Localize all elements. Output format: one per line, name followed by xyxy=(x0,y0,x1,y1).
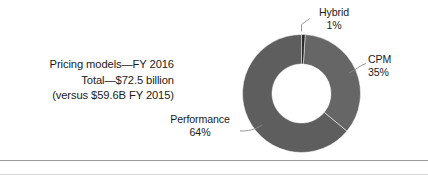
callout-cpm: CPM 35% xyxy=(368,53,424,78)
callout-performance-percent: 64% xyxy=(163,126,237,139)
caption-line-prior-year: (versus $59.6B FY 2015) xyxy=(8,88,174,104)
callout-performance-name: Performance xyxy=(163,113,237,126)
callout-performance: Performance 64% xyxy=(163,113,237,138)
donut-slice-cpm xyxy=(303,35,360,131)
bottom-rule xyxy=(0,160,428,161)
pricing-models-donut-figure: Pricing models—FY 2016 Total—$72.5 billi… xyxy=(0,0,428,176)
caption-line-title: Pricing models—FY 2016 xyxy=(8,57,174,73)
callout-hybrid: Hybrid 1% xyxy=(307,6,361,31)
bottom-rule-faint xyxy=(0,174,428,175)
chart-caption: Pricing models—FY 2016 Total—$72.5 billi… xyxy=(8,57,174,104)
callout-cpm-percent: 35% xyxy=(368,66,424,79)
donut-chart-svg xyxy=(242,29,362,159)
donut-chart xyxy=(242,29,362,159)
callout-hybrid-percent: 1% xyxy=(307,19,361,32)
caption-line-total: Total—$72.5 billion xyxy=(8,73,174,89)
callout-hybrid-name: Hybrid xyxy=(307,6,361,19)
callout-cpm-name: CPM xyxy=(368,53,424,66)
